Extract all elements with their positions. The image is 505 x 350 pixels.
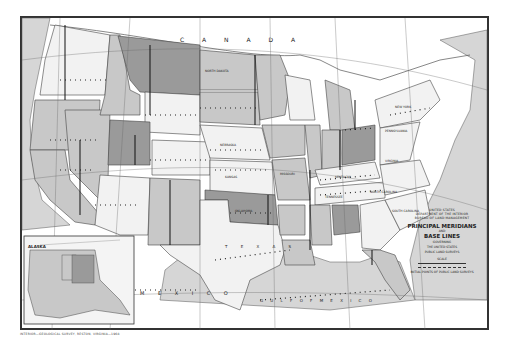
label-texas: T E X A S [224, 244, 297, 249]
label-canada: C A N A D A [180, 36, 303, 43]
label-mexico: M E X I C O [140, 290, 234, 296]
map-title-line-2: BASE LINES [402, 233, 482, 239]
scale-bar [418, 263, 466, 268]
legend-note: INITIAL POINTS OF PUBLIC LAND SURVEYS [402, 270, 482, 274]
title-block: UNITED STATES DEPARTMENT OF THE INTERIOR… [402, 208, 482, 274]
bureau-name: BUREAU OF LAND MANAGEMENT [402, 216, 482, 220]
label-alaska: ALASKA [28, 244, 47, 249]
label-oklahoma: OKLAHOMA [235, 209, 253, 213]
label-pennsylvania: PENNSYLVANIA [385, 129, 408, 133]
subtitle-3: PUBLIC LAND SURVEYS [402, 250, 482, 254]
imprint-line: INTERIOR—GEOLOGICAL SURVEY, RESTON, VIRG… [20, 332, 120, 336]
alaska-inset: ALASKA [24, 236, 134, 324]
label-nebraska: NEBRASKA [220, 143, 237, 147]
label-new-york: NEW YORK [395, 105, 412, 109]
label-kentucky: KENTUCKY [335, 175, 351, 179]
label-virginia: VIRGINIA [385, 159, 399, 163]
label-gulf: G U L F O F M E X I C O [260, 298, 375, 303]
subtitle-2: THE UNITED STATES [402, 245, 482, 249]
us-meridians-map: C A N A D A M E X I C O G U L F O F M E … [0, 0, 505, 350]
label-north-dakota: NORTH DAKOTA [205, 69, 230, 73]
scale-label: SCALE [402, 257, 482, 261]
label-tennessee: TENNESSEE [324, 195, 343, 199]
label-missouri: MISSOURI [280, 172, 295, 176]
subtitle-1: GOVERNING [402, 240, 482, 244]
label-kansas: KANSAS [225, 175, 237, 179]
label-north-carolina: NORTH CAROLINA [370, 190, 398, 194]
